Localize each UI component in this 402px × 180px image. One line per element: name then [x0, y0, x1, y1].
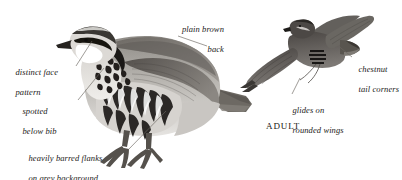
label-plain-brown-back: plain brown back: [152, 14, 224, 54]
label-line-1: glides on: [292, 105, 324, 115]
label-chestnut-tail-corners: chestnut tail corners: [354, 54, 402, 94]
label-spotted-below-bib: spotted below bib: [18, 96, 80, 136]
label-line-2: tail corners: [358, 84, 399, 94]
label-distinct-face-pattern: distinct face pattern: [11, 57, 81, 97]
bill: [56, 40, 72, 49]
label-line-1: heavily barred flanks: [28, 153, 102, 163]
adult-caption: ADULT: [266, 121, 300, 131]
label-line-1: plain brown: [182, 24, 224, 34]
label-line-1: spotted: [22, 106, 47, 116]
label-line-1: chestnut: [358, 64, 387, 74]
leader-glides-on-rounded-wings: [292, 78, 300, 94]
eye: [84, 38, 87, 41]
label-line-1: distinct face: [15, 67, 58, 77]
label-line-2: back: [208, 44, 224, 54]
label-heavily-barred-flanks: heavily barred flanks on grey background: [24, 143, 136, 180]
label-line-2: on grey background: [28, 173, 98, 180]
label-line-2: below bib: [22, 126, 56, 136]
